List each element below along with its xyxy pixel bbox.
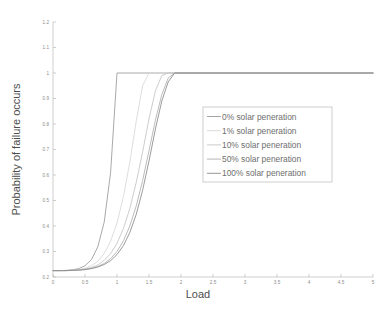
- y-tick-label: 0.9: [43, 96, 50, 101]
- x-tick-label: 5: [372, 280, 375, 285]
- y-tick-label: 0.2: [43, 275, 50, 280]
- y-tick-label: 0.8: [43, 122, 50, 127]
- chart-legend: 0% solar peneration1% solar peneration10…: [203, 107, 332, 182]
- y-axis-title: Probability of failure occurs: [10, 83, 22, 216]
- x-tick-label: 3.5: [274, 280, 281, 285]
- y-tick-label: 0.3: [43, 249, 50, 254]
- y-tick-label: 0.7: [43, 147, 50, 152]
- x-tick-label: 2.5: [210, 280, 217, 285]
- y-tick-label: 1.2: [43, 20, 50, 25]
- legend-label-3: 50% solar peneration: [222, 154, 301, 164]
- x-tick-label: 3: [244, 280, 247, 285]
- y-tick-label: 1.1: [43, 45, 50, 50]
- x-tick-label: 4: [308, 280, 311, 285]
- legend-label-4: 100% solar peneration: [222, 168, 306, 178]
- x-tick-label: 1.5: [146, 280, 153, 285]
- legend-label-2: 10% solar peneration: [222, 140, 301, 150]
- x-tick-label: 1: [116, 280, 119, 285]
- x-axis-title: Load: [186, 288, 210, 300]
- legend-label-0: 0% solar peneration: [222, 112, 297, 122]
- legend-label-1: 1% solar peneration: [222, 126, 297, 136]
- y-tick-label: 0.6: [43, 173, 50, 178]
- chart-figure: 00.511.522.533.544.55 0.20.30.40.50.60.7…: [0, 0, 383, 312]
- line-chart: 00.511.522.533.544.55 0.20.30.40.50.60.7…: [0, 0, 383, 312]
- x-tick-label: 0: [52, 280, 55, 285]
- y-tick-label: 1: [46, 71, 49, 76]
- x-tick-label: 0.5: [82, 280, 89, 285]
- x-tick-label: 2: [180, 280, 183, 285]
- x-tick-label: 4.5: [338, 280, 345, 285]
- y-tick-label: 0.5: [43, 198, 50, 203]
- y-tick-label: 0.4: [43, 224, 50, 229]
